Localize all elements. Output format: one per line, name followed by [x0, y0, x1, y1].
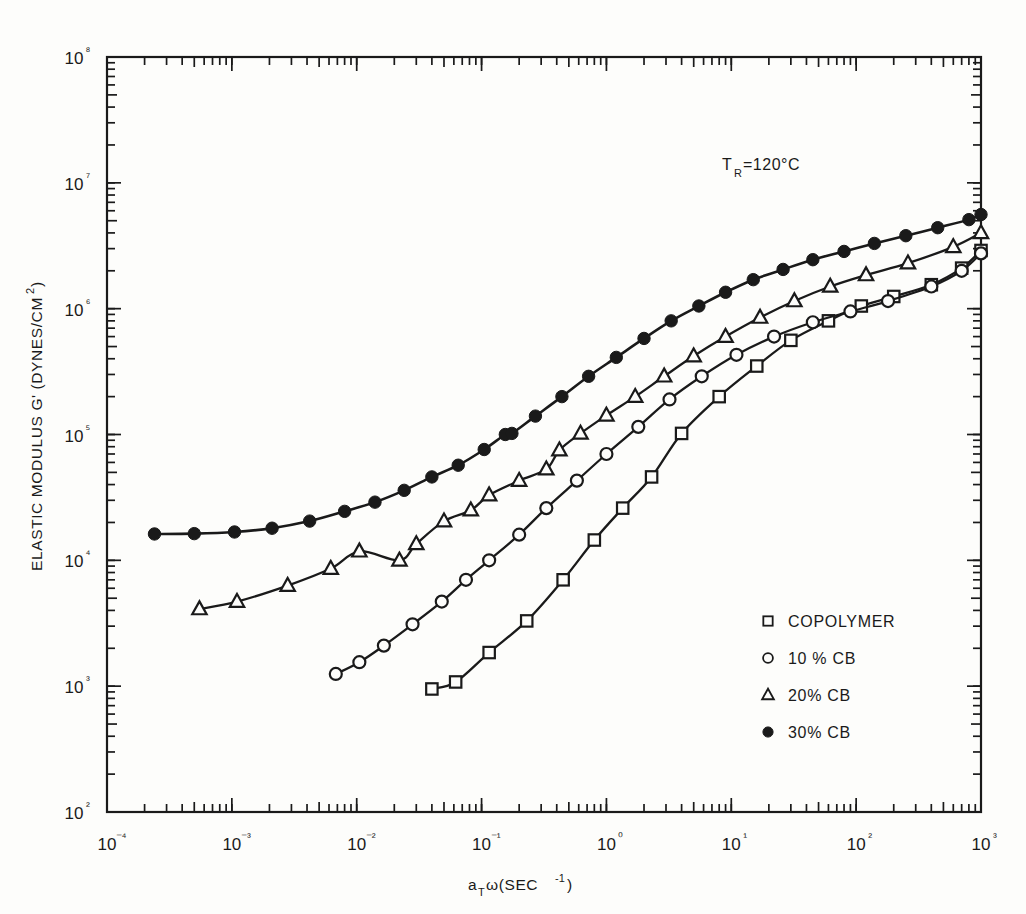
svg-text:-1: -1: [555, 872, 565, 884]
svg-text:10: 10: [98, 835, 117, 854]
svg-text:10: 10: [972, 835, 991, 854]
marker-filled-circle: [777, 263, 789, 275]
y-tick-label-5: 10⁷: [65, 171, 91, 194]
marker-open-circle: [763, 653, 773, 663]
annotation-value: =120°C: [743, 156, 800, 173]
marker-open-circle: [882, 295, 894, 307]
marker-open-triangle: [753, 310, 767, 323]
svg-text:ELASTIC MODULUS G' (DYNES/CM: ELASTIC MODULUS G' (DYNES/CM: [28, 297, 45, 571]
svg-text:10: 10: [65, 552, 84, 571]
legend-item-10-cb[interactable]: 10 % CB: [763, 650, 856, 667]
marker-filled-circle: [478, 443, 490, 455]
marker-open-circle: [975, 247, 987, 259]
svg-text:¹: ¹: [743, 831, 747, 843]
svg-text:10: 10: [847, 835, 866, 854]
series-line: [154, 215, 981, 534]
marker-filled-circle: [506, 427, 518, 439]
marker-filled-circle: [338, 505, 350, 517]
marker-open-triangle: [762, 689, 774, 700]
marker-filled-circle: [582, 370, 594, 382]
y-tick-label-3: 10⁵: [65, 423, 91, 446]
marker-filled-circle: [398, 484, 410, 496]
x-tick-label-5: 10¹: [722, 831, 748, 854]
svg-text:⁻²: ⁻²: [366, 831, 376, 843]
series-markers: [426, 245, 987, 695]
marker-filled-circle: [763, 727, 773, 737]
svg-text:³: ³: [993, 831, 997, 843]
marker-open-triangle: [437, 513, 451, 526]
svg-text:10: 10: [222, 835, 241, 854]
marker-filled-circle: [747, 273, 759, 285]
svg-text:10: 10: [65, 678, 84, 697]
marker-open-triangle: [352, 544, 366, 557]
svg-text:⁵: ⁵: [86, 423, 91, 435]
svg-text:⁷: ⁷: [86, 171, 90, 183]
marker-open-circle: [436, 596, 448, 608]
x-axis-tick-labels: 10⁻⁴10⁻³10⁻²10⁻¹10⁰10¹10²10³: [98, 831, 998, 854]
marker-filled-circle: [807, 253, 819, 265]
marker-filled-circle: [556, 390, 568, 402]
marker-open-square: [646, 471, 657, 482]
series-line: [432, 250, 981, 688]
marker-open-circle: [483, 554, 495, 566]
marker-filled-circle: [452, 459, 464, 471]
marker-filled-circle: [838, 245, 850, 257]
marker-filled-circle: [148, 528, 160, 540]
marker-open-circle: [807, 316, 819, 328]
marker-open-circle: [730, 349, 742, 361]
chart-legend: COPOLYMER10 % CB20% CB30% CB: [762, 613, 895, 741]
legend-item-copolymer[interactable]: COPOLYMER: [763, 613, 895, 630]
x-tick-label-0: 10⁻⁴: [98, 831, 127, 854]
svg-text:a: a: [468, 876, 477, 893]
marker-filled-circle: [719, 286, 731, 298]
x-tick-label-6: 10²: [847, 831, 873, 854]
legend-item-30-cb[interactable]: 30% CB: [763, 724, 851, 741]
x-tick-label-7: 10³: [972, 831, 998, 854]
marker-open-circle: [768, 331, 780, 343]
svg-text:ω(SEC: ω(SEC: [486, 876, 538, 893]
annotation-subscript: R: [734, 167, 742, 179]
marker-open-triangle: [599, 408, 613, 421]
series-markers: [148, 208, 987, 540]
legend-item-label: 20% CB: [788, 687, 851, 704]
x-tick-label-1: 10⁻³: [222, 831, 251, 854]
marker-open-circle: [632, 421, 644, 433]
legend-item-label: 10 % CB: [788, 650, 856, 667]
marker-filled-circle: [610, 351, 622, 363]
marker-open-square: [617, 502, 628, 513]
marker-open-circle: [600, 448, 612, 460]
marker-open-triangle: [628, 389, 642, 402]
marker-open-triangle: [482, 487, 496, 500]
svg-text:⁶: ⁶: [86, 297, 91, 309]
svg-text:10: 10: [65, 175, 84, 194]
svg-text:⁸: ⁸: [86, 45, 91, 57]
marker-filled-circle: [188, 527, 200, 539]
marker-filled-circle: [369, 496, 381, 508]
legend-item-20-cb[interactable]: 20% CB: [762, 687, 851, 704]
marker-open-square: [483, 647, 494, 658]
marker-open-circle: [540, 502, 552, 514]
marker-open-circle: [696, 370, 708, 382]
svg-text:⁻³: ⁻³: [241, 831, 251, 843]
marker-filled-circle: [529, 410, 541, 422]
marker-open-square: [521, 615, 532, 626]
svg-text:10: 10: [65, 301, 84, 320]
marker-open-circle: [330, 668, 342, 680]
legend-item-label: COPOLYMER: [788, 613, 895, 630]
legend-item-label: 30% CB: [788, 724, 851, 741]
marker-filled-circle: [665, 315, 677, 327]
svg-text:2: 2: [24, 288, 36, 294]
svg-text:): ): [567, 876, 573, 893]
svg-text:10: 10: [597, 835, 616, 854]
x-tick-label-2: 10⁻²: [347, 831, 376, 854]
y-tick-label-2: 10⁴: [65, 548, 91, 571]
marker-open-square: [450, 676, 461, 687]
y-tick-label-1: 10³: [65, 674, 91, 697]
marker-open-square: [589, 534, 600, 545]
svg-text:³: ³: [86, 674, 90, 686]
marker-open-circle: [460, 574, 472, 586]
marker-filled-circle: [638, 332, 650, 344]
marker-filled-circle: [228, 526, 240, 538]
marker-open-square: [713, 391, 724, 402]
marker-open-triangle: [687, 348, 701, 361]
